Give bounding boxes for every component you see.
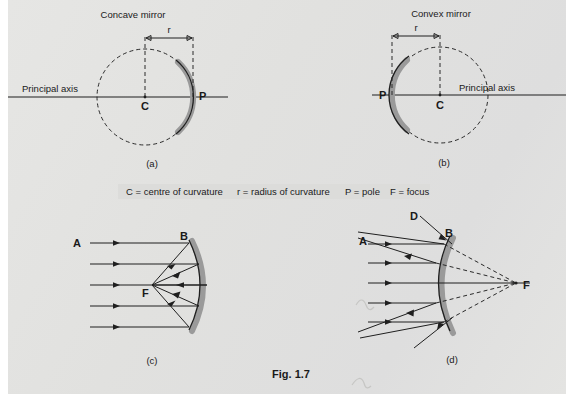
panel-c-label-f: F	[142, 287, 149, 299]
panel-d-virtual-ray-2	[436, 263, 516, 283]
panel-a-radius-label: r	[167, 24, 170, 35]
panel-c-concave-rays: A B F (c)	[73, 230, 207, 366]
panel-c-incident-arrow-4	[113, 303, 120, 309]
legend-item-p: P = pole	[345, 186, 380, 197]
panel-a-concave-mirror: Concave mirror r C P Principal axis (a)	[8, 9, 228, 169]
legend-item-c: C = centre of curvature	[126, 186, 223, 197]
panel-d-sublabel: (d)	[446, 354, 458, 365]
panel-b-sublabel: (b)	[438, 157, 450, 168]
panel-d-convex-rays: A D B F (d)	[358, 210, 530, 365]
panel-c-reflected-arrow-1	[167, 264, 176, 270]
panel-a-sublabel: (a)	[146, 158, 158, 169]
panel-b-radius-label: r	[414, 22, 417, 33]
legend-bar: C = centre of curvature r = radius of cu…	[118, 184, 430, 199]
scan-smudge-left	[356, 300, 374, 310]
panel-a-title: Concave mirror	[101, 9, 166, 20]
panel-a-pole-label: P	[199, 90, 206, 102]
page-root: Concave mirror r C P Principal axis (a)	[0, 0, 578, 417]
panel-d-label-b: B	[445, 227, 453, 239]
legend-item-f: F = focus	[390, 186, 430, 197]
panel-a-center-label: C	[141, 100, 149, 112]
panel-a-axis-label: Principal axis	[22, 83, 78, 94]
panel-d-label-a: A	[359, 235, 367, 247]
panel-d-virtual-ray-5	[444, 283, 516, 322]
panel-d-virtual-ray-1	[444, 244, 516, 283]
panel-c-incident-arrow-1	[113, 240, 120, 246]
panel-d-incident-arrow-4	[385, 300, 392, 306]
panel-d-reflected-ray-4	[358, 303, 436, 332]
panel-d-incident-arrow-2	[385, 260, 392, 266]
panel-d-virtual-ray-4	[436, 283, 516, 303]
panel-d-incident-arrow-3	[385, 280, 392, 286]
panel-b-center-label: C	[436, 99, 444, 111]
panel-b-pole-label: P	[379, 89, 386, 101]
figure-caption: Fig. 1.7	[272, 368, 310, 380]
panel-b-convex-mirror: Convex mirror r C P Principal axis (b)	[372, 8, 566, 168]
panel-a-center-dot	[144, 96, 147, 99]
panel-d-label-f: F	[523, 279, 530, 291]
panel-d-reflected-arrow-4	[406, 310, 414, 317]
figure-canvas: Concave mirror r C P Principal axis (a)	[0, 0, 578, 417]
panel-c-incident-arrow-5	[113, 324, 120, 330]
panel-d-reflected-ray-5	[360, 322, 444, 338]
panel-c-incident-arrow-3	[113, 282, 120, 288]
panel-b-axis-label: Principal axis	[459, 82, 515, 93]
panel-c-label-a: A	[73, 237, 81, 249]
panel-d-incident-arrow-1	[385, 241, 392, 247]
panel-d-label-d: D	[410, 210, 418, 222]
panel-c-incident-arrow-2	[113, 261, 120, 267]
panel-c-label-b: B	[180, 230, 188, 242]
panel-b-center-dot	[439, 94, 442, 97]
panel-c-reflected-arrow-3	[176, 282, 184, 288]
scan-smudge-bottom	[352, 378, 371, 387]
panel-b-title: Convex mirror	[411, 8, 471, 19]
panel-c-sublabel: (c)	[146, 355, 157, 366]
panel-d-focus-dot	[514, 281, 517, 284]
legend-item-r: r = radius of curvature	[237, 186, 330, 197]
